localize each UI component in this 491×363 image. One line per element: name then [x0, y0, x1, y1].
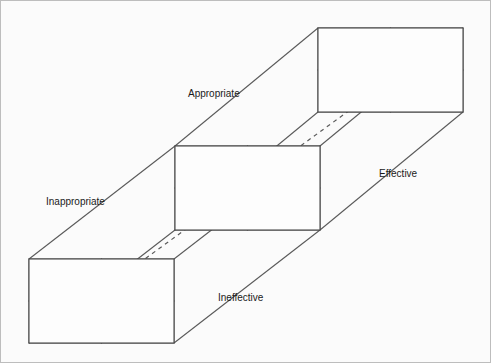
panel-outline [318, 28, 463, 112]
axis-label-ineffective: Ineffective [218, 292, 264, 303]
panel-outline [175, 146, 320, 230]
diagram-canvas: 1Developer2Executive3Bureaucrat4Benevole… [0, 0, 491, 363]
diagram-root: 1Developer2Executive3Bureaucrat4Benevole… [0, 0, 491, 363]
effective-styles-panel: 1Developer2Executive3Bureaucrat4Benevole… [318, 28, 463, 112]
basic-styles-panel: 1Relayed2Integrated3Separated4Dedicated [175, 146, 320, 230]
edge-bottom-br-middle-br [174, 230, 320, 343]
axis-label-effective: Effective [379, 168, 418, 179]
edge-middle-tl-top-tl [175, 28, 318, 146]
axis-label-appropriate: Appropriate [188, 88, 240, 99]
ineffective-styles-panel: 1Missionary2Compromiser3Deserter4Autocra… [29, 259, 174, 343]
panel-outline [29, 259, 174, 343]
axis-label-inappropriate: Inappropriate [46, 196, 105, 207]
